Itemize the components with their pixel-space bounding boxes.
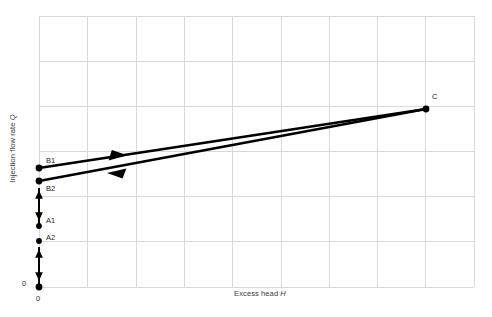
x-axis-title-text: Excess head	[234, 289, 280, 298]
x-axis-title-symbol: H	[280, 289, 286, 298]
grid-lines	[39, 16, 475, 288]
x-axis-origin-tick: 0	[36, 294, 40, 303]
point-label-a2: A2	[46, 233, 55, 242]
chart-canvas	[0, 0, 492, 317]
point-a2-marker	[36, 238, 42, 244]
chart-figure: Injection flow rate Q Excess head H B1 B…	[0, 0, 492, 317]
point-label-b2: B2	[46, 184, 55, 193]
point-origin-marker	[36, 284, 43, 291]
point-b2-marker	[36, 178, 43, 185]
point-b1-marker	[36, 165, 43, 172]
point-a1-marker	[36, 223, 42, 229]
point-c-marker	[423, 106, 430, 113]
point-label-a1: A1	[46, 216, 55, 225]
arrow-left-icon	[107, 169, 126, 179]
point-label-c: C	[432, 92, 437, 101]
y-axis-title: Injection flow rate Q	[8, 103, 17, 195]
point-label-b1: B1	[46, 156, 55, 165]
x-axis-title: Excess head H	[204, 289, 316, 298]
y-axis-title-text: Injection flow rate	[8, 120, 17, 182]
y-axis-title-symbol: Q	[8, 114, 17, 120]
y-axis-origin-tick: 0	[22, 279, 26, 288]
